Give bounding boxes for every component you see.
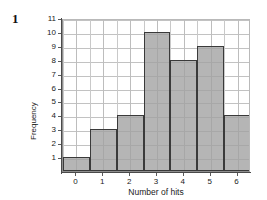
question-number: 1 (12, 12, 19, 25)
x-tick-mark (210, 173, 211, 176)
y-tick-label: 7 (38, 71, 56, 79)
bar (117, 115, 144, 171)
y-tick-label: 8 (38, 57, 56, 65)
y-tick-mark (58, 144, 61, 145)
x-tick-label: 3 (146, 177, 166, 186)
y-tick: 4 (38, 112, 56, 120)
bar (63, 157, 90, 171)
bar-series (63, 20, 249, 171)
x-tick-mark (102, 173, 103, 176)
y-tick: 9 (38, 43, 56, 51)
y-tick-label: 9 (38, 43, 56, 51)
y-tick-mark (58, 116, 61, 117)
x-tick-label: 4 (173, 177, 193, 186)
y-tick: 3 (38, 126, 56, 134)
bar (197, 46, 224, 171)
bar (90, 129, 117, 171)
bar (144, 32, 171, 171)
x-tick-mark (156, 173, 157, 176)
y-tick: 11 (38, 15, 56, 23)
x-tick-label: 6 (227, 177, 247, 186)
x-tick-label: 2 (119, 177, 139, 186)
y-tick: 5 (38, 98, 56, 106)
y-tick-label: 3 (38, 126, 56, 134)
x-tick-mark (183, 173, 184, 176)
x-tick-mark (237, 173, 238, 176)
x-tick-label: 0 (65, 177, 85, 186)
y-tick-mark (58, 102, 61, 103)
plot-area (62, 19, 250, 172)
bar (170, 60, 197, 171)
y-tick-label: 4 (38, 112, 56, 120)
y-tick-mark (58, 61, 61, 62)
x-tick-mark (75, 173, 76, 176)
y-tick: 2 (38, 140, 56, 148)
y-tick: 7 (38, 71, 56, 79)
y-tick-label: 10 (38, 29, 56, 37)
y-tick-mark (58, 130, 61, 131)
x-tick-label: 5 (200, 177, 220, 186)
y-tick: 1 (38, 154, 56, 162)
y-tick-mark (58, 33, 61, 34)
y-axis-title: Frequency (22, 62, 36, 142)
y-axis-title-text: Frequency (30, 102, 38, 140)
y-tick-label: 2 (38, 140, 56, 148)
y-tick-label: 6 (38, 85, 56, 93)
y-tick-mark (58, 47, 61, 48)
x-axis-title: Number of hits (62, 188, 250, 197)
y-tick: 6 (38, 85, 56, 93)
y-tick-label: 1 (38, 154, 56, 162)
y-tick-mark (58, 19, 61, 20)
y-tick-label: 11 (38, 15, 56, 23)
bar (224, 115, 250, 171)
y-tick-mark (58, 89, 61, 90)
x-tick-label: 1 (92, 177, 112, 186)
y-tick: 10 (38, 29, 56, 37)
y-tick-mark (58, 158, 61, 159)
x-tick-mark (129, 173, 130, 176)
y-tick: 8 (38, 57, 56, 65)
histogram-figure: 1 1234567891011 0123456 Frequency Number… (0, 0, 267, 200)
y-tick-label: 5 (38, 98, 56, 106)
y-axis-line (61, 18, 62, 174)
y-tick-mark (58, 75, 61, 76)
